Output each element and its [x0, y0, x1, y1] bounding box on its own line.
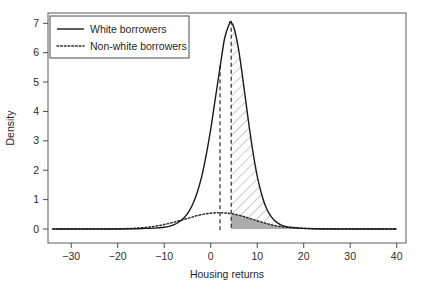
legend: White borrowers Non-white borrowers [50, 16, 189, 58]
x-tick-label: −10 [155, 250, 173, 262]
y-tick-label: 2 [33, 164, 39, 176]
chart-canvas: −30−20−10010203040 01234567 Housing retu… [0, 0, 426, 291]
y-tick-label: 4 [33, 105, 39, 117]
y-axis-title: Density [4, 110, 16, 146]
x-axis-title: Housing returns [190, 268, 264, 280]
legend-label-white-borrowers: White borrowers [90, 23, 166, 35]
x-tick-label: −20 [109, 250, 127, 262]
x-tick-label: 0 [208, 250, 214, 262]
y-tick-label: 0 [33, 223, 39, 235]
y-tick-label: 1 [33, 193, 39, 205]
density-chart-figure: −30−20−10010203040 01234567 Housing retu… [0, 0, 426, 291]
y-tick-label: 7 [33, 17, 39, 29]
x-tick-label: 40 [391, 250, 403, 262]
y-tick-label: 5 [33, 76, 39, 88]
y-tick-label: 6 [33, 46, 39, 58]
y-tick-label: 3 [33, 134, 39, 146]
x-tick-label: 10 [251, 250, 263, 262]
x-tick-label: 20 [298, 250, 310, 262]
x-tick-label: 30 [344, 250, 356, 262]
legend-label-non-white-borrowers: Non-white borrowers [90, 40, 187, 52]
x-tick-label: −30 [62, 250, 80, 262]
